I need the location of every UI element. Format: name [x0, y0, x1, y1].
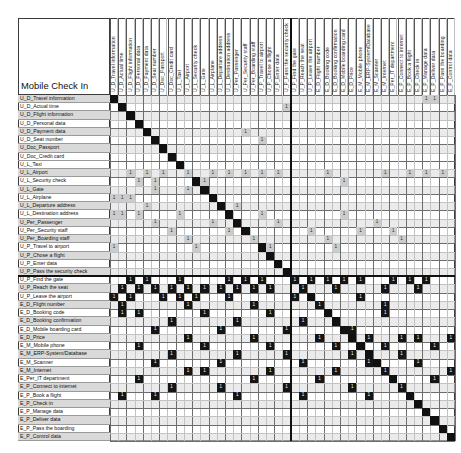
matrix-cell-mark: 1 — [118, 210, 126, 218]
row-label: U_L_Airport — [18, 169, 110, 177]
grid-line-vertical — [455, 95, 456, 441]
column-header: U_L_Taxi — [176, 18, 184, 95]
matrix-cell-mark: 1 — [118, 309, 126, 317]
matrix-cell-mark: 1 — [373, 219, 381, 227]
column-header-label: U_D_Actual time — [120, 52, 125, 92]
matrix-cell-mark: 1 — [324, 169, 332, 177]
dsm-matrix-figure: Mobile Check In U_D_Travel informationU_… — [0, 0, 461, 453]
matrix-cell-mark: 1 — [365, 392, 373, 400]
matrix-cell-mark: 1 — [143, 202, 151, 210]
column-header: U_L_Security check — [192, 18, 200, 95]
row-label: U_P_Leave the airport — [18, 293, 110, 301]
matrix-cell-mark: 1 — [348, 350, 356, 358]
row-label: E_D_Mobile boarding card — [18, 326, 110, 334]
matrix-cell-mark: 1 — [299, 284, 307, 292]
grid-line-vertical — [389, 95, 390, 441]
matrix-cell-mark: 1 — [406, 169, 414, 177]
matrix-cell-mark: 1 — [209, 169, 217, 177]
matrix-cell-mark: 1 — [217, 359, 225, 367]
horizontal-block-divider — [18, 275, 455, 277]
row-label: E_P_Deliver data — [18, 416, 110, 424]
matrix-cell-mark: 1 — [332, 367, 340, 375]
matrix-cell-mark: 1 — [233, 284, 241, 292]
matrix-cell-diagonal — [356, 342, 364, 350]
matrix-cell-diagonal — [168, 153, 176, 161]
matrix-cell-mark: 1 — [233, 350, 241, 358]
grid-line-vertical — [340, 95, 341, 441]
row-label: E_D_Flight number — [18, 301, 110, 309]
matrix-cell-mark: 1 — [389, 227, 397, 235]
matrix-cell-mark: 1 — [192, 293, 200, 301]
row-label: U_P_Travel to airport — [18, 243, 110, 251]
grid-line-horizontal — [110, 309, 455, 310]
row-label-column: U_D_Travel informationU_D_Actual timeU_D… — [18, 95, 110, 441]
column-header-label: E_M_ERP-System/Database — [366, 24, 371, 92]
column-header-label: E_M_Mobile phone — [358, 46, 363, 92]
column-header-label: U_P_Leave the airport — [309, 39, 314, 92]
column-header: U_P_Find the gate — [291, 18, 299, 95]
matrix-cell-mark: 1 — [389, 276, 397, 284]
matrix-cell-mark: 1 — [151, 284, 159, 292]
matrix-cell-diagonal — [307, 293, 315, 301]
row-label: E_D_Booking code — [18, 309, 110, 317]
matrix-cell-diagonal — [143, 128, 151, 136]
matrix-cell-mark: 1 — [159, 169, 167, 177]
column-header: U_Per_Security staff — [241, 18, 249, 95]
grid-line-horizontal — [110, 317, 455, 318]
row-label: U_D_Seat number — [18, 136, 110, 144]
matrix-cell-diagonal — [406, 392, 414, 400]
column-header: E_P_Pass the boarding — [439, 18, 447, 95]
grid-line-horizontal — [110, 392, 455, 393]
grid-line-vertical — [373, 95, 374, 441]
matrix-cell-mark: 1 — [266, 342, 274, 350]
matrix-cell-mark: 1 — [176, 293, 184, 301]
column-header-label: U_L_Taxi — [177, 70, 182, 92]
matrix-cell-mark: 1 — [225, 276, 233, 284]
row-label: U_P_Reach the seat — [18, 284, 110, 292]
row-label: E_M_Internet — [18, 367, 110, 375]
row-label: U_P_Find the gate — [18, 276, 110, 284]
row-label: E_M_Scanner — [18, 359, 110, 367]
grid-line-horizontal — [110, 284, 455, 285]
matrix-cell-mark: 1 — [209, 219, 217, 227]
column-header-label: E_D_Flight number — [317, 46, 322, 92]
matrix-cell-mark: 1 — [118, 284, 126, 292]
column-header-label: U_P_Reach the seat — [300, 43, 305, 92]
matrix-cell-mark: 1 — [381, 301, 389, 309]
matrix-cell-mark: 1 — [118, 194, 126, 202]
matrix-cell-mark: 1 — [315, 375, 323, 383]
matrix-cell-mark: 1 — [356, 227, 364, 235]
matrix-cell-mark: 1 — [365, 334, 373, 342]
matrix-cell-mark: 1 — [151, 359, 159, 367]
matrix-cell-diagonal — [365, 350, 373, 358]
matrix-cell-diagonal — [135, 120, 143, 128]
matrix-cell-mark: 1 — [200, 309, 208, 317]
row-label: U_Doc_Passport — [18, 144, 110, 152]
row-label: U_L_Security check — [18, 177, 110, 185]
column-header: U_D_Travel information — [110, 18, 118, 95]
column-header-label: U_L_Gate — [202, 68, 207, 92]
column-header-label: U_Per_Security staff — [243, 43, 248, 92]
matrix-cell-mark: 1 — [291, 276, 299, 284]
column-header: E_M_Scanner — [373, 18, 381, 95]
column-header-label: E_M_Scanner — [374, 59, 379, 92]
matrix-cell-mark: 1 — [217, 383, 225, 391]
column-header-label: E_D_Mobile boarding card — [342, 29, 347, 92]
row-label: U_Per_Boarding staff — [18, 235, 110, 243]
column-header-label: U_Per_Passenger — [235, 49, 240, 92]
matrix-cell-diagonal — [422, 408, 430, 416]
grid-line-vertical — [406, 95, 407, 441]
matrix-cell-mark: 1 — [184, 169, 192, 177]
matrix-cell-mark: 1 — [135, 375, 143, 383]
column-header: U_Doc_Passport — [159, 18, 167, 95]
row-label: U_D_Personal data — [18, 120, 110, 128]
matrix-cell-mark: 1 — [414, 359, 422, 367]
matrix-cell-mark: 1 — [414, 334, 422, 342]
matrix-cell-diagonal — [389, 375, 397, 383]
column-header-label: E_P_Control data — [448, 50, 453, 92]
column-header: U_D_Payment data — [143, 18, 151, 95]
row-label: E_P_Manage data — [18, 408, 110, 416]
matrix-cell-diagonal — [241, 227, 249, 235]
grid-line-horizontal — [110, 342, 455, 343]
matrix-cell-mark: 1 — [184, 186, 192, 194]
